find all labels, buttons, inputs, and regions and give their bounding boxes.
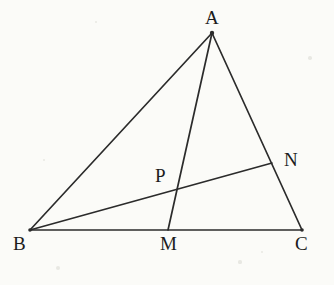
point-label-b: B (13, 234, 26, 253)
point-label-p: P (155, 166, 166, 185)
segment-bn (30, 163, 272, 230)
segment-ab (30, 33, 212, 230)
segment-ac (212, 33, 302, 230)
point-label-a: A (205, 8, 219, 27)
paper-speck (56, 266, 60, 270)
vertex-dot-a (210, 31, 214, 35)
point-label-c: C (295, 234, 308, 253)
point-label-n: N (284, 150, 298, 169)
paper-speck (238, 260, 241, 263)
segment-am (168, 33, 212, 230)
vertex-dots-group (28, 31, 304, 232)
geometry-figure: ABCMNP (0, 0, 334, 285)
segments-group (30, 33, 302, 230)
paper-speck (308, 56, 312, 60)
vertex-dot-c (300, 228, 304, 232)
vertex-dot-b (28, 228, 32, 232)
point-label-m: M (160, 234, 177, 253)
